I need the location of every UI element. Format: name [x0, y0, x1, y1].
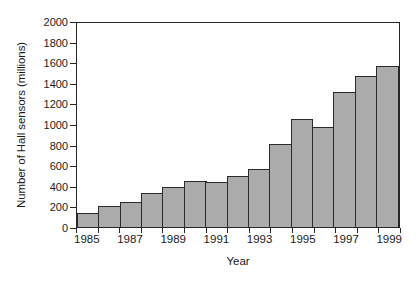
x-tick-label-1993: 1993: [238, 234, 282, 246]
x-tick-label-1995: 1995: [281, 234, 325, 246]
bar-chart-figure: Number of Hall sensors (millions) 020040…: [0, 0, 419, 283]
bar-1985: [77, 213, 100, 227]
y-tick-label-600: 600: [28, 161, 68, 172]
bars-layer: [77, 23, 399, 227]
bar-1999: [376, 66, 399, 227]
y-tick-label-800: 800: [28, 141, 68, 152]
bar-1986: [98, 206, 121, 227]
bar-1995: [291, 119, 314, 227]
bar-1989: [162, 187, 185, 227]
y-tick-label-2000: 2000: [28, 17, 68, 28]
x-tick-label-1985: 1985: [65, 234, 109, 246]
bar-1988: [141, 193, 164, 227]
x-tick-label-1991: 1991: [194, 234, 238, 246]
bar-1996: [312, 127, 335, 227]
y-tick-label-400: 400: [28, 182, 68, 193]
y-tick-label-200: 200: [28, 202, 68, 213]
bar-1997: [333, 92, 356, 227]
bar-1993: [248, 169, 271, 227]
bar-1998: [355, 76, 378, 227]
x-tick-label-1997: 1997: [324, 234, 368, 246]
bar-1994: [269, 144, 292, 227]
bar-1990: [184, 181, 207, 227]
y-tick-label-1400: 1400: [28, 79, 68, 90]
y-tick-label-1600: 1600: [28, 58, 68, 69]
y-tick-label-1800: 1800: [28, 38, 68, 49]
y-tick-label-1200: 1200: [28, 99, 68, 110]
bar-1991: [205, 182, 228, 227]
y-tick-label-1000: 1000: [28, 120, 68, 131]
bar-1992: [227, 176, 250, 227]
x-tick-label-1987: 1987: [108, 234, 152, 246]
x-axis-title: Year: [76, 255, 400, 267]
y-tick-label-0: 0: [28, 223, 68, 234]
bar-1987: [120, 202, 143, 227]
x-tick-label-1999: 1999: [367, 234, 411, 246]
x-tick-label-1989: 1989: [151, 234, 195, 246]
plot-area: [76, 22, 400, 228]
